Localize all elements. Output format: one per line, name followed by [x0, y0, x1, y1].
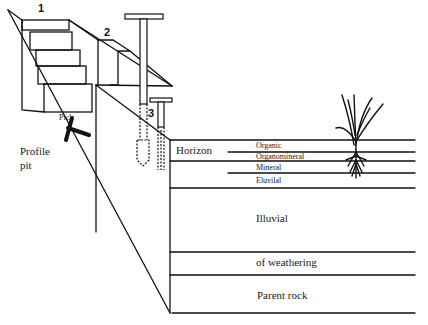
horizon-label: Horizon [176, 145, 212, 156]
profile-pit-label-line2: pit [20, 160, 32, 171]
horizon-organic: Organic [256, 142, 282, 150]
marker-1: 1 [38, 3, 44, 14]
horizon-parent-rock: Parent rock [257, 290, 307, 301]
stairs-icon [22, 20, 98, 112]
horizon-mineral: Mineral [256, 164, 281, 172]
profile-pit-label-line1: Profile [20, 146, 50, 157]
soil-profile-diagram: 1 2 3 Pick Profile pit Horizon Organic O… [0, 0, 428, 325]
marker-2: 2 [104, 27, 110, 38]
marker-3: 3 [148, 108, 154, 119]
diagram-lines [0, 0, 428, 325]
horizon-weathering: of weathering [256, 257, 317, 268]
pick-label: Pick [59, 114, 73, 122]
horizon-illuvial: Illuvial [256, 213, 288, 224]
horizon-eluvial: Eluvilal [256, 177, 281, 185]
plant-icon [336, 95, 383, 178]
horizon-organomineral: Organomineral [256, 153, 304, 161]
